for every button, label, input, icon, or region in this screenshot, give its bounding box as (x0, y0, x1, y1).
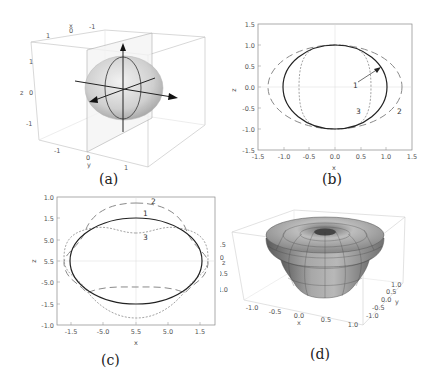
curve-b-label-3: 3 (356, 107, 361, 116)
tick-b-x: -1.5 (252, 153, 265, 161)
tick-c-y: 5.0 (44, 237, 54, 245)
caption-d: (d) (310, 346, 330, 362)
panel-d-3d-surface: 0.5 0.0 z -0.5 -1.0 -1.0 -0.5 0.0 x 0.5 … (220, 190, 435, 387)
curve-c-label-2: 2 (151, 197, 156, 206)
tick-c-x: -1.5 (65, 328, 78, 336)
curve-c-label-3: 3 (143, 233, 148, 242)
axis-c-z-label: z (30, 259, 38, 263)
tick-d-z: 0.5 (220, 241, 226, 249)
tick-c-x: 1.5 (195, 328, 205, 336)
panel-a-3d-ellipsoid: x 0 1 -1 1 z 0 -1 -1 0 y 1 (a) (0, 0, 220, 190)
curve-b-label-1: 1 (353, 81, 358, 90)
caption-a: (a) (99, 171, 118, 187)
tick-c-y: -1.0 (41, 322, 54, 330)
tick-c-x: 5.0 (163, 328, 173, 336)
tick-a-x-neg1: -1 (89, 23, 95, 31)
tick-c-y: 1.0 (44, 194, 54, 202)
tick-b-y: 1.5 (245, 21, 255, 29)
tick-d-x: -1.0 (246, 304, 259, 312)
tick-d-y: 0.0 (381, 296, 391, 304)
tick-d-y: -1.0 (366, 312, 379, 320)
tick-c-y: -5.0 (41, 279, 54, 287)
tick-d-y: 0.5 (386, 288, 396, 296)
tick-a-z-neg1: -1 (26, 120, 32, 128)
panel-b-plot: 1 2 3 1.5 1.0 0.5 0.0 -0.5 -1.0 -1.5 z -… (220, 0, 435, 190)
tick-b-y: -0.5 (242, 105, 255, 113)
tick-c-y: 5.5 (44, 258, 54, 266)
axis-d-y-label: y (395, 298, 399, 306)
tick-b-x: -1.0 (278, 153, 291, 161)
tick-c-x: 5.5 (131, 328, 141, 336)
axis-d-x-label: x (297, 319, 301, 327)
axis-c-x-label: x (134, 339, 138, 347)
tick-a-x-1: 1 (46, 32, 50, 40)
tick-b-y: 1.0 (245, 42, 255, 50)
tick-c-y: -1.5 (41, 301, 54, 309)
tick-a-z-1: 1 (29, 58, 33, 66)
tick-c-y: 1.5 (44, 215, 54, 223)
axis-a-y-label: y (87, 161, 91, 169)
panel-a-plot: x 0 1 -1 1 z 0 -1 -1 0 y 1 (0, 0, 220, 190)
tick-b-x: 1.5 (407, 153, 417, 161)
tick-b-y: 0.0 (245, 84, 255, 92)
tick-a-y-neg1: -1 (54, 147, 60, 155)
tick-a-y-1: 1 (124, 164, 128, 172)
tick-d-x: -0.5 (269, 308, 282, 316)
caption-b: (b) (322, 171, 342, 187)
tick-d-x: 1.0 (348, 321, 358, 329)
curve-c-label-1: 1 (143, 209, 148, 218)
panel-c-curves: 1 2 3 1.0 1.5 5.0 5.5 -5.0 -1.5 -1.0 z -… (0, 190, 220, 387)
tick-c-x: -5.0 (97, 328, 110, 336)
caption-c: (c) (101, 352, 120, 368)
tick-d-x: 0.5 (321, 316, 331, 324)
tick-b-x: 1.0 (381, 153, 391, 161)
tick-d-z: -0.5 (220, 270, 228, 278)
tick-d-y: -0.5 (372, 304, 385, 312)
tick-b-y: -1.0 (242, 126, 255, 134)
curve-b-label-2: 2 (397, 107, 402, 116)
tick-d-z: -1.0 (220, 286, 228, 294)
axis-a-z-label: z (20, 89, 24, 97)
tick-b-x: -0.5 (303, 153, 316, 161)
panel-b-curves: 1 2 3 1.5 1.0 0.5 0.0 -0.5 -1.0 -1.5 z -… (220, 0, 435, 190)
tick-a-z-0: 0 (29, 89, 33, 97)
tick-b-x: 0.5 (356, 153, 366, 161)
axis-b-z-label: z (230, 88, 238, 92)
axis-d-z-label: z (222, 259, 226, 267)
tick-b-y: 0.5 (245, 63, 255, 71)
tick-b-x: 0.0 (330, 153, 340, 161)
tick-a-x-0: 0 (69, 27, 73, 35)
